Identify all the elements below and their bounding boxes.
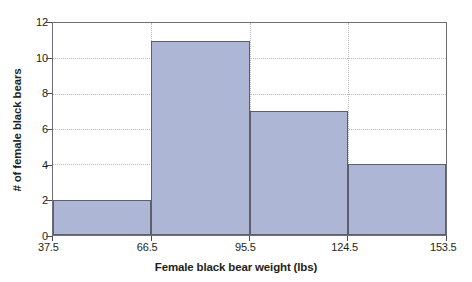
histogram-bar[interactable] (151, 41, 249, 235)
x-tick-label: 95.5 (235, 242, 256, 253)
y-tick-label: 10 (22, 53, 48, 64)
plot-area (52, 22, 447, 236)
histogram-bar[interactable] (53, 200, 151, 235)
y-tick-label: 2 (22, 195, 48, 206)
x-tick-label: 153.5 (430, 242, 457, 253)
y-tick-label: 8 (22, 88, 48, 99)
x-tick-label: 37.5 (38, 242, 59, 253)
x-tick-label: 66.5 (137, 242, 158, 253)
x-tick-label: 124.5 (331, 242, 358, 253)
histogram-figure: # of female black bears 0 2 4 6 8 10 12 (0, 0, 472, 282)
y-tick-label: 12 (22, 17, 48, 28)
histogram-bar[interactable] (348, 164, 446, 235)
histogram-bar[interactable] (250, 111, 348, 235)
y-tick-label: 4 (22, 160, 48, 171)
y-tick-label: 6 (22, 124, 48, 135)
x-axis-title: Female black bear weight (lbs) (0, 261, 472, 273)
